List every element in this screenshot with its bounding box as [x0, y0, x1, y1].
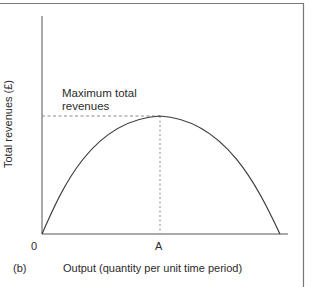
annotation-line-2: revenues [62, 100, 162, 113]
max-revenue-annotation: Maximum total revenues [62, 87, 162, 113]
y-axis-label-text: Total revenues (£) [2, 72, 14, 176]
x-tick-a: A [155, 240, 162, 253]
panel-label: (b) [13, 262, 26, 275]
x-tick-origin: 0 [31, 240, 37, 253]
x-axis-label: Output (quantity per unit time period) [63, 262, 242, 275]
total-revenue-figure: Total revenues (£) Maximum total revenue… [0, 0, 312, 287]
y-axis-label: Total revenues (£) [2, 118, 14, 130]
total-revenue-curve-path [42, 116, 280, 234]
annotation-line-1: Maximum total [62, 87, 162, 100]
